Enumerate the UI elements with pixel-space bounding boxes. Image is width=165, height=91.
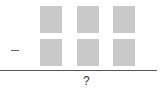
bottom-box-1 bbox=[40, 39, 62, 66]
top-box-1 bbox=[40, 6, 62, 33]
top-box-2 bbox=[77, 6, 99, 33]
top-box-3 bbox=[113, 6, 135, 33]
answer-placeholder: ? bbox=[83, 74, 90, 88]
bottom-box-3 bbox=[113, 39, 135, 66]
answer-line bbox=[0, 70, 157, 71]
bottom-box-2 bbox=[77, 39, 99, 66]
minus-sign bbox=[11, 50, 19, 51]
